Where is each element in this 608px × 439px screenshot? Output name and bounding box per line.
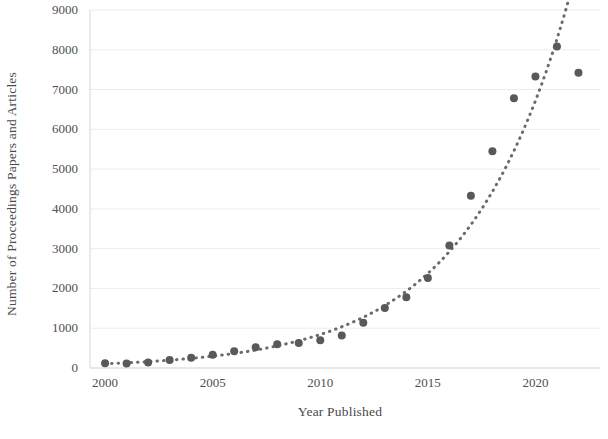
chart-figure: Number of Proceedings Papers and Article… [0, 0, 608, 439]
trendline [105, 3, 570, 364]
data-point [187, 354, 195, 362]
data-point [273, 340, 281, 348]
data-point [488, 147, 496, 155]
data-point [359, 319, 367, 327]
data-point [402, 293, 410, 301]
data-point [230, 347, 238, 355]
data-point [338, 331, 346, 339]
data-point [209, 351, 217, 359]
data-point [553, 43, 561, 51]
data-point-group [101, 43, 582, 368]
data-point [316, 336, 324, 344]
data-point [144, 358, 152, 366]
data-point [101, 359, 109, 367]
gridlines [90, 10, 600, 328]
data-point [381, 304, 389, 312]
data-point [424, 274, 432, 282]
data-point [295, 339, 303, 347]
data-point [510, 94, 518, 102]
data-point [467, 192, 475, 200]
data-point [574, 69, 582, 77]
data-point [531, 72, 539, 80]
data-point [252, 343, 260, 351]
data-point [123, 360, 131, 368]
data-point [445, 241, 453, 249]
data-point [166, 356, 174, 364]
scatter-plot-area [0, 0, 608, 439]
